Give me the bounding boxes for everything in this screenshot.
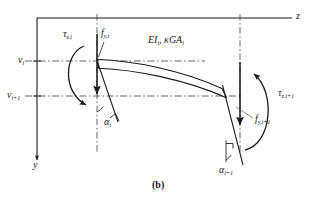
beam-element-diagram: [0, 0, 314, 203]
force-label-node-i1: fy,i+1: [255, 114, 270, 124]
section-line-node-i: [97, 62, 119, 122]
moment-label-node-i: τz,i: [63, 29, 72, 39]
axis-label-z: z: [296, 11, 300, 21]
rotation-label-node-i: αi: [104, 117, 111, 127]
rotation-label-node-i1: αi+1: [219, 165, 233, 175]
rotation-subscript-node-i1: i+1: [224, 169, 233, 176]
beam-property-sub-2: i: [182, 39, 184, 46]
moment-subscript-node-i: z,i: [67, 33, 72, 40]
beam-element-body: [98, 60, 227, 98]
displacement-label-node-i: vi: [18, 55, 24, 65]
moment-subscript-node-i1: z,i+1: [282, 92, 294, 99]
figure-caption: (b): [152, 180, 164, 190]
beam-property-label: EIi, κGAi: [148, 35, 184, 45]
displacement-subscript-node-i1: i+1: [11, 94, 20, 101]
moment-arc-node-i1: [245, 74, 268, 150]
beam-property-mid: , κGA: [159, 34, 182, 45]
force-label-node-i: fy,i: [101, 28, 109, 38]
displacement-subscript-node-i: i: [22, 59, 24, 66]
displacement-label-node-i1: vi+1: [7, 90, 20, 100]
rotation-subscript-node-i: i: [109, 121, 111, 128]
force-subscript-node-i1: y,i+1: [258, 118, 270, 125]
beam-property-sub-1: i: [157, 39, 159, 46]
figure-container: z y τz,i fy,i EIi, κGAi vi vi+1 αi τz,i+…: [0, 0, 314, 203]
moment-label-node-i1: τz,i+1: [278, 88, 294, 98]
leader-line-force-node-i1: [236, 107, 253, 118]
axis-label-y: y: [33, 160, 37, 170]
leader-line-force-node-i: [99, 42, 105, 57]
force-subscript-node-i: y,i: [104, 32, 109, 39]
